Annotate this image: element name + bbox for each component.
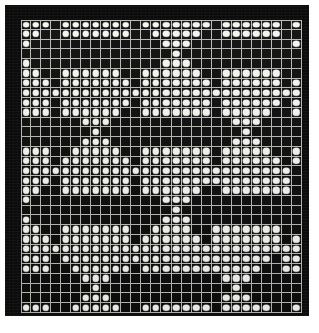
matrix-cell-off[interactable]	[101, 127, 111, 137]
matrix-cell-on[interactable]	[202, 79, 212, 89]
matrix-cell-on[interactable]	[161, 20, 171, 30]
matrix-cell-off[interactable]	[202, 59, 212, 69]
matrix-cell-on[interactable]	[252, 157, 262, 167]
matrix-cell-off[interactable]	[282, 274, 292, 284]
matrix-cell-on[interactable]	[81, 166, 91, 176]
matrix-cell-off[interactable]	[282, 157, 292, 167]
matrix-cell-on[interactable]	[81, 30, 91, 40]
matrix-cell-on[interactable]	[101, 293, 111, 303]
matrix-cell-on[interactable]	[31, 147, 41, 157]
matrix-cell-off[interactable]	[292, 196, 302, 206]
matrix-cell-on[interactable]	[111, 235, 121, 245]
matrix-cell-on[interactable]	[292, 40, 302, 50]
matrix-cell-on[interactable]	[141, 98, 151, 108]
matrix-cell-on[interactable]	[31, 79, 41, 89]
matrix-cell-on[interactable]	[262, 303, 272, 313]
matrix-cell-on[interactable]	[182, 30, 192, 40]
matrix-cell-on[interactable]	[81, 79, 91, 89]
matrix-cell-off[interactable]	[292, 69, 302, 79]
matrix-cell-on[interactable]	[91, 303, 101, 313]
matrix-cell-off[interactable]	[71, 215, 81, 225]
matrix-cell-off[interactable]	[81, 49, 91, 59]
matrix-cell-off[interactable]	[41, 274, 51, 284]
matrix-cell-off[interactable]	[272, 118, 282, 128]
matrix-cell-on[interactable]	[232, 254, 242, 264]
matrix-cell-on[interactable]	[21, 264, 31, 274]
matrix-cell-off[interactable]	[292, 293, 302, 303]
matrix-cell-on[interactable]	[202, 303, 212, 313]
matrix-cell-off[interactable]	[212, 40, 222, 50]
matrix-cell-off[interactable]	[51, 137, 61, 147]
matrix-cell-off[interactable]	[232, 59, 242, 69]
matrix-cell-off[interactable]	[262, 196, 272, 206]
matrix-cell-off[interactable]	[131, 274, 141, 284]
matrix-cell-on[interactable]	[111, 157, 121, 167]
matrix-cell-on[interactable]	[91, 225, 101, 235]
matrix-cell-on[interactable]	[252, 254, 262, 264]
matrix-cell-off[interactable]	[151, 127, 161, 137]
matrix-cell-on[interactable]	[21, 40, 31, 50]
matrix-cell-off[interactable]	[71, 49, 81, 59]
matrix-cell-off[interactable]	[192, 49, 202, 59]
matrix-cell-on[interactable]	[81, 254, 91, 264]
matrix-cell-on[interactable]	[232, 69, 242, 79]
matrix-cell-on[interactable]	[71, 157, 81, 167]
matrix-cell-on[interactable]	[222, 147, 232, 157]
matrix-cell-off[interactable]	[101, 59, 111, 69]
matrix-cell-off[interactable]	[121, 303, 131, 313]
matrix-cell-on[interactable]	[222, 20, 232, 30]
matrix-cell-off[interactable]	[272, 215, 282, 225]
matrix-cell-on[interactable]	[31, 166, 41, 176]
matrix-cell-on[interactable]	[182, 20, 192, 30]
matrix-cell-on[interactable]	[222, 166, 232, 176]
matrix-cell-on[interactable]	[182, 59, 192, 69]
matrix-cell-off[interactable]	[31, 40, 41, 50]
matrix-cell-on[interactable]	[61, 98, 71, 108]
matrix-cell-off[interactable]	[141, 225, 151, 235]
matrix-cell-on[interactable]	[172, 157, 182, 167]
matrix-cell-on[interactable]	[192, 166, 202, 176]
matrix-cell-on[interactable]	[71, 79, 81, 89]
matrix-cell-off[interactable]	[91, 59, 101, 69]
matrix-cell-on[interactable]	[262, 147, 272, 157]
matrix-cell-off[interactable]	[91, 196, 101, 206]
matrix-cell-on[interactable]	[292, 254, 302, 264]
matrix-cell-on[interactable]	[151, 254, 161, 264]
matrix-cell-on[interactable]	[242, 186, 252, 196]
matrix-cell-off[interactable]	[232, 40, 242, 50]
matrix-cell-on[interactable]	[151, 225, 161, 235]
matrix-cell-off[interactable]	[282, 40, 292, 50]
matrix-cell-on[interactable]	[172, 30, 182, 40]
matrix-cell-off[interactable]	[292, 59, 302, 69]
matrix-cell-on[interactable]	[101, 137, 111, 147]
matrix-cell-on[interactable]	[41, 20, 51, 30]
matrix-cell-off[interactable]	[252, 49, 262, 59]
matrix-cell-on[interactable]	[101, 108, 111, 118]
matrix-cell-off[interactable]	[51, 49, 61, 59]
matrix-cell-on[interactable]	[192, 147, 202, 157]
matrix-cell-off[interactable]	[202, 186, 212, 196]
matrix-cell-on[interactable]	[242, 79, 252, 89]
matrix-cell-on[interactable]	[172, 206, 182, 216]
matrix-cell-off[interactable]	[151, 293, 161, 303]
matrix-cell-on[interactable]	[161, 186, 171, 196]
matrix-cell-on[interactable]	[242, 20, 252, 30]
matrix-cell-off[interactable]	[131, 49, 141, 59]
matrix-cell-on[interactable]	[101, 98, 111, 108]
matrix-cell-on[interactable]	[252, 30, 262, 40]
matrix-cell-off[interactable]	[151, 49, 161, 59]
matrix-cell-on[interactable]	[292, 98, 302, 108]
matrix-cell-off[interactable]	[212, 118, 222, 128]
matrix-cell-off[interactable]	[151, 215, 161, 225]
matrix-cell-off[interactable]	[81, 127, 91, 137]
matrix-cell-on[interactable]	[91, 284, 101, 294]
matrix-cell-on[interactable]	[222, 30, 232, 40]
matrix-cell-on[interactable]	[91, 166, 101, 176]
matrix-cell-off[interactable]	[31, 127, 41, 137]
matrix-cell-off[interactable]	[111, 196, 121, 206]
matrix-cell-off[interactable]	[222, 49, 232, 59]
matrix-cell-on[interactable]	[272, 69, 282, 79]
matrix-cell-on[interactable]	[91, 137, 101, 147]
matrix-cell-on[interactable]	[91, 157, 101, 167]
matrix-cell-on[interactable]	[192, 20, 202, 30]
